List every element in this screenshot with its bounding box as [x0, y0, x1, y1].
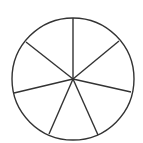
sector-divider-line [73, 79, 98, 135]
divided-circle-diagram [0, 0, 143, 143]
sector-divider-line [49, 79, 73, 134]
diagram-canvas [0, 0, 143, 143]
sector-dividers [14, 18, 131, 135]
sector-divider-line [14, 79, 73, 93]
sector-divider-line [26, 42, 73, 79]
sector-divider-line [73, 41, 119, 79]
sector-divider-line [73, 79, 131, 92]
